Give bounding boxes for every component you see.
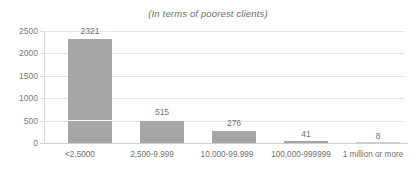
x-axis-line bbox=[40, 143, 408, 144]
data-label-category-3: 41 bbox=[301, 129, 310, 139]
bar-series-0-category-1[interactable] bbox=[140, 120, 184, 143]
data-label-category-2: 276 bbox=[227, 118, 241, 128]
x-tick-label-category-1: 2,500-9.999 bbox=[130, 150, 174, 159]
x-tick-label-category-2: 10.000-99.999 bbox=[201, 150, 254, 159]
y-axis-labels: 0 500 1000 1500 2000 2500 bbox=[0, 0, 38, 176]
y-tick-label-2000: 2000 bbox=[4, 48, 38, 58]
y-tick-label-0: 0 bbox=[4, 138, 38, 148]
y-tick-label-500: 500 bbox=[4, 116, 38, 126]
x-tick-label-category-3: 100,000-999999 bbox=[271, 150, 331, 159]
y-tick-label-1500: 1500 bbox=[4, 71, 38, 81]
data-label-category-4: 8 bbox=[376, 131, 381, 141]
chart-title: (In terms of poorest clients) bbox=[0, 8, 416, 19]
bar-gridline-overlay bbox=[68, 120, 112, 121]
x-tick-label-category-4: 1 million or more bbox=[343, 150, 404, 159]
y-tick-label-2500: 2500 bbox=[4, 26, 38, 36]
x-tick-label-category-0: <2,5000 bbox=[65, 150, 95, 159]
bar-series-0-category-2[interactable] bbox=[212, 131, 256, 143]
bar-chart: (In terms of poorest clients) 0 500 1000… bbox=[0, 0, 416, 176]
data-label-category-0: 2321 bbox=[81, 26, 100, 36]
bar-series-0-category-0[interactable] bbox=[68, 39, 112, 143]
bar-gridline-overlay bbox=[140, 120, 184, 121]
data-label-category-1: 515 bbox=[155, 107, 169, 117]
y-tick-label-1000: 1000 bbox=[4, 93, 38, 103]
plot-area bbox=[44, 31, 404, 143]
